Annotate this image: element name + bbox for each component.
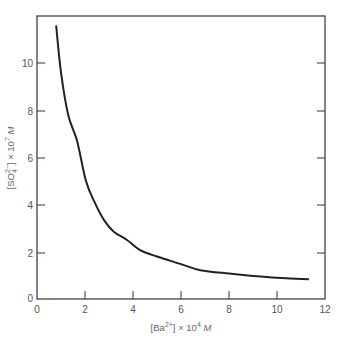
- y-tick-label: 8: [27, 106, 33, 117]
- y-tick-label: 10: [22, 58, 34, 69]
- x-tick-label: 10: [271, 304, 283, 315]
- y-axis-label: [SO42−] × 107 M: [4, 127, 18, 190]
- x-axis-label: [Ba2+] × 104 M: [151, 321, 212, 333]
- y-tick-label: 2: [27, 248, 33, 259]
- y-tick-label: 4: [27, 200, 33, 211]
- y-ticks-left: [37, 63, 45, 253]
- x-tick-label: 2: [82, 304, 88, 315]
- x-ticks: [85, 291, 277, 299]
- x-tick-label: 4: [130, 304, 136, 315]
- y-tick-label: 0: [27, 293, 33, 304]
- y-tick-labels: 0 2 4 6 8 10: [22, 58, 34, 304]
- y-tick-label: 6: [27, 153, 33, 164]
- x-tick-label: 12: [319, 304, 331, 315]
- x-tick-labels: 0 2 4 6 8 10 12: [34, 304, 331, 315]
- y-ticks-right: [317, 63, 325, 253]
- solubility-curve: [56, 26, 308, 279]
- chart-svg: 0 2 4 6 8 10 12 0 2 4 6 8 10 [Ba2+] × 10…: [0, 0, 342, 341]
- x-tick-label: 0: [34, 304, 40, 315]
- x-tick-label: 8: [226, 304, 232, 315]
- x-tick-label: 6: [178, 304, 184, 315]
